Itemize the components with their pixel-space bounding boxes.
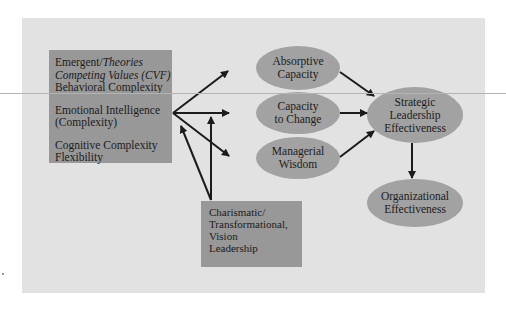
scan-artifact-line	[0, 93, 506, 94]
arrow-predictors-to-absorptive	[173, 71, 228, 113]
arrow-charismatic-to-predictors	[181, 126, 211, 200]
arrow-wisdom-to-strategic	[340, 131, 374, 157]
arrows-layer	[0, 0, 506, 309]
arrow-predictors-to-wisdom	[173, 113, 229, 156]
diagram-canvas: Emergent/Theories Competing Values (CVF)…	[0, 0, 506, 309]
scan-artifact-speck	[2, 273, 4, 275]
